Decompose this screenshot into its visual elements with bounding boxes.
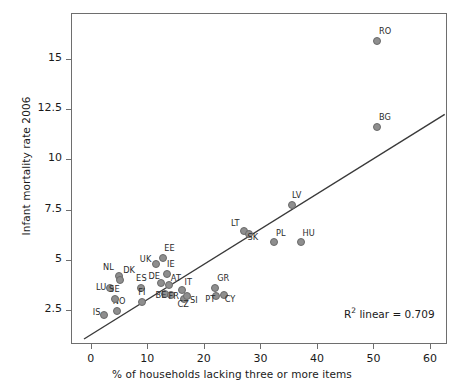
x-axis-title: % of households lacking three or more it…: [0, 368, 464, 380]
data-point-label-dk: DK: [123, 265, 135, 275]
data-point-label-ee: EE: [164, 243, 175, 253]
x-tick-mark: [317, 344, 318, 349]
data-point-pl[interactable]: [270, 238, 278, 246]
scatter-plot-figure: Infant mortality rate 2006 % of househol…: [0, 0, 464, 387]
y-tick-label: 10: [14, 151, 62, 164]
data-point-label-pl: PL: [276, 228, 286, 238]
data-point-label-at: AT: [171, 273, 181, 283]
x-tick-mark: [204, 344, 205, 349]
data-point-se[interactable]: [111, 295, 119, 303]
x-tick-label: 40: [297, 352, 337, 365]
y-tick-mark: [66, 260, 71, 261]
data-point-label-gr: GR: [217, 273, 229, 283]
y-tick-label: 12.5: [14, 101, 62, 114]
y-tick-mark: [66, 159, 71, 160]
data-point-label-lv: LV: [292, 190, 301, 200]
r2-suffix: linear = 0.709: [356, 308, 435, 320]
data-point-ee[interactable]: [159, 254, 167, 262]
data-point-no[interactable]: [113, 307, 121, 315]
data-point-uk[interactable]: [152, 260, 160, 268]
data-point-lv[interactable]: [288, 201, 296, 209]
data-point-label-be: BE: [155, 290, 166, 300]
data-point-label-se: SE: [109, 284, 120, 294]
y-tick-mark: [66, 210, 71, 211]
data-point-label-de: DE: [148, 271, 160, 281]
data-point-label-it: IT: [184, 277, 192, 287]
data-point-is[interactable]: [100, 311, 108, 319]
data-point-gr[interactable]: [211, 284, 219, 292]
data-point-dk[interactable]: [116, 276, 124, 284]
y-tick-label: 2.5: [14, 302, 62, 315]
x-tick-label: 30: [240, 352, 280, 365]
x-tick-mark: [91, 344, 92, 349]
x-tick-label: 50: [353, 352, 393, 365]
data-point-label-fi: FI: [138, 287, 145, 297]
y-tick-mark: [66, 310, 71, 311]
x-tick-mark: [147, 344, 148, 349]
data-point-label-si: SI: [190, 295, 198, 305]
data-point-label-hu: HU: [303, 228, 315, 238]
y-tick-label: 15: [14, 51, 62, 64]
x-tick-label: 60: [410, 352, 450, 365]
data-point-label-cy: CY: [225, 294, 236, 304]
y-tick-mark: [66, 59, 71, 60]
data-point-label-lu: LU: [96, 282, 106, 292]
x-tick-mark: [260, 344, 261, 349]
data-point-label-ie: IE: [167, 259, 175, 269]
x-tick-label: 20: [184, 352, 224, 365]
data-point-label-pt: PT: [205, 294, 215, 304]
y-tick-label: 5: [14, 252, 62, 265]
x-tick-mark: [373, 344, 374, 349]
data-point-hu[interactable]: [297, 238, 305, 246]
x-tick-mark: [430, 344, 431, 349]
data-point-label-cz: CZ: [178, 299, 190, 309]
data-point-label-es: ES: [136, 273, 147, 283]
plot-area-frame: [71, 13, 447, 344]
y-tick-mark: [66, 109, 71, 110]
data-point-label-sk: SK: [248, 232, 259, 242]
y-axis-title: Infant mortality rate 2006: [20, 46, 32, 286]
x-tick-label: 10: [127, 352, 167, 365]
y-tick-label: 7.5: [14, 202, 62, 215]
data-point-label-lt: LT: [231, 218, 240, 228]
data-point-label-is: IS: [93, 307, 101, 317]
data-point-label-bg: BG: [379, 112, 391, 122]
data-point-ro[interactable]: [373, 37, 381, 45]
data-point-label-uk: UK: [140, 254, 152, 264]
r-squared-annotation: R2 linear = 0.709: [344, 306, 435, 320]
data-point-label-nl: NL: [103, 262, 114, 272]
data-point-label-ro: RO: [379, 26, 391, 36]
x-tick-label: 0: [71, 352, 111, 365]
